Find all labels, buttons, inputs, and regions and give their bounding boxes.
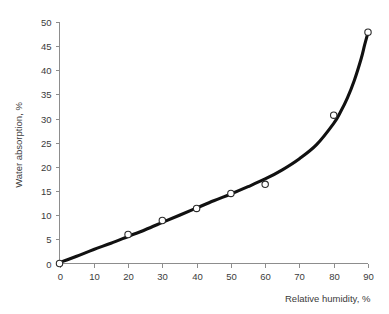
data-point-marker xyxy=(228,190,234,196)
x-tick-label: 50 xyxy=(226,271,237,282)
y-tick-label: 35 xyxy=(41,89,52,100)
x-tick-label: 20 xyxy=(123,271,134,282)
data-point-marker xyxy=(56,260,62,266)
y-tick-label: 25 xyxy=(41,138,52,149)
x-axis-title: Relative humidity, % xyxy=(285,293,371,304)
y-tick-label: 5 xyxy=(46,234,51,245)
x-tick-label: 30 xyxy=(157,271,168,282)
y-tick-label: 0 xyxy=(46,259,51,270)
x-tick-label: 60 xyxy=(260,271,271,282)
data-point-marker xyxy=(365,29,371,35)
y-axis-title: Water absorption, % xyxy=(13,102,24,188)
x-tick-label: 80 xyxy=(329,271,340,282)
y-tick-label: 10 xyxy=(41,210,52,221)
water-absorption-vs-humidity-chart: 05101520253035404550 0102030405060708090… xyxy=(0,0,389,314)
data-point-marker xyxy=(262,181,268,187)
y-tick-label: 15 xyxy=(41,186,52,197)
chart-figure: 05101520253035404550 0102030405060708090… xyxy=(0,0,389,314)
y-tick-label: 40 xyxy=(41,65,52,76)
x-tick-label: 40 xyxy=(192,271,203,282)
x-tick-label: 70 xyxy=(294,271,305,282)
data-point-marker xyxy=(159,217,165,223)
y-tick-label: 30 xyxy=(41,114,52,125)
y-tick-label: 45 xyxy=(41,41,52,52)
y-tick-label: 50 xyxy=(41,17,52,28)
y-tick-label: 20 xyxy=(41,162,52,173)
x-tick-label: 10 xyxy=(89,271,100,282)
x-tick-label: 0 xyxy=(58,271,63,282)
data-point-marker xyxy=(331,112,337,118)
x-tick-label: 90 xyxy=(363,271,374,282)
data-point-marker xyxy=(125,231,131,237)
data-point-marker xyxy=(193,205,199,211)
